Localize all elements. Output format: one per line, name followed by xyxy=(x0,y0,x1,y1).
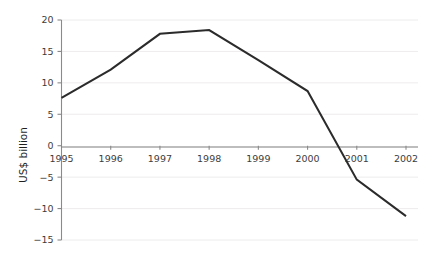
y-tick-label: 10 xyxy=(41,77,53,88)
y-tick-label: 15 xyxy=(41,46,53,57)
x-tick-label: 1999 xyxy=(246,153,270,164)
line-chart: 20151050−5−10−15 19951996199719981999200… xyxy=(0,0,425,262)
chart-background xyxy=(0,0,425,262)
chart-canvas: 20151050−5−10−15 19951996199719981999200… xyxy=(0,0,425,262)
x-tick-label: 1998 xyxy=(197,153,221,164)
y-axis-title: US$ billion xyxy=(17,127,29,183)
x-tick-label: 1995 xyxy=(49,153,73,164)
y-tick-label: −10 xyxy=(33,203,53,214)
y-tick-label: 0 xyxy=(47,140,53,151)
y-tick-label: −5 xyxy=(39,172,53,183)
x-tick-label: 1996 xyxy=(99,153,123,164)
x-tick-label: 2001 xyxy=(345,153,369,164)
y-tick-label: −15 xyxy=(33,234,53,245)
x-tick-label: 2002 xyxy=(394,153,418,164)
y-tick-label: 5 xyxy=(47,109,53,120)
y-tick-label: 20 xyxy=(41,14,53,25)
x-tick-label: 2000 xyxy=(295,153,319,164)
x-tick-label: 1997 xyxy=(148,153,172,164)
